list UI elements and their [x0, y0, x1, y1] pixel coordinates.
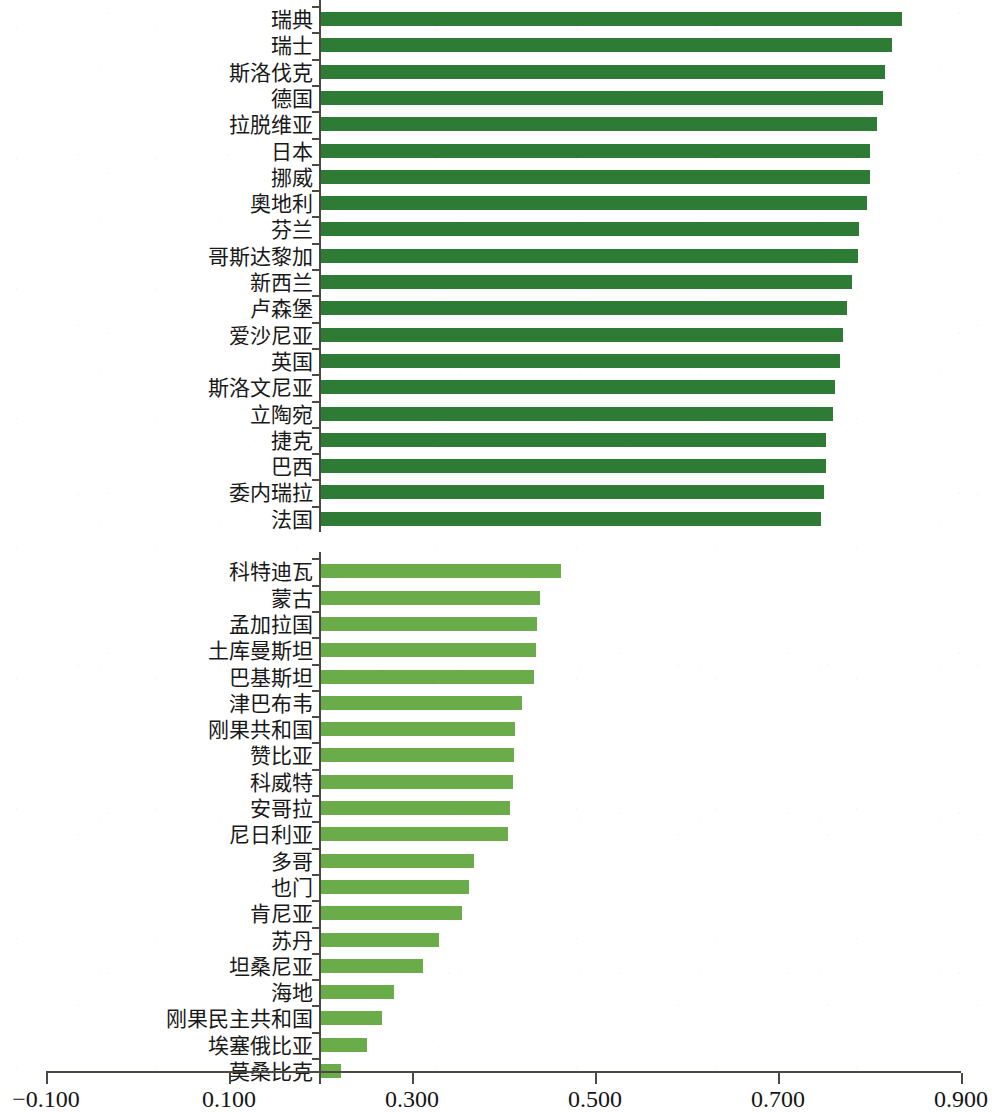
bar-row: 刚果民主共和国 — [0, 1005, 984, 1031]
category-tick — [312, 1058, 321, 1060]
category-label: 新西兰 — [250, 270, 313, 296]
bar — [321, 512, 822, 526]
x-axis-tick — [412, 1073, 414, 1084]
bar — [321, 1011, 382, 1025]
category-label: 刚果民主共和国 — [166, 1006, 313, 1032]
bar — [321, 485, 824, 499]
category-label: 英国 — [271, 349, 313, 375]
x-axis-tick — [229, 1073, 231, 1084]
category-label: 蒙古 — [271, 586, 313, 612]
x-axis-tick-label: 0.500 — [535, 1086, 655, 1112]
category-tick — [312, 637, 321, 639]
bar-row: 科威特 — [0, 769, 984, 795]
x-axis-tick-label: 0.100 — [169, 1086, 289, 1112]
bar-row: 埃塞俄比亚 — [0, 1032, 984, 1058]
bar — [321, 696, 522, 710]
category-label: 肯尼亚 — [250, 901, 313, 927]
category-tick — [312, 59, 321, 61]
bar-row: 斯洛伐克 — [0, 59, 984, 85]
category-label: 爱沙尼亚 — [229, 323, 313, 349]
plot-area: 瑞典瑞士斯洛伐克德国拉脱维亚日本挪威奧地利芬兰哥斯达黎加新西兰卢森堡爱沙尼亚英国… — [0, 0, 984, 1072]
bar — [321, 117, 877, 131]
category-tick — [312, 85, 321, 87]
category-tick — [312, 295, 321, 297]
category-tick — [312, 690, 321, 692]
category-label: 多哥 — [271, 849, 313, 875]
bar-row: 津巴布韦 — [0, 690, 984, 716]
bar — [321, 170, 870, 184]
category-tick — [312, 927, 321, 929]
category-tick — [312, 322, 321, 324]
bar-row: 土库曼斯坦 — [0, 637, 984, 663]
category-label: 拉脱维亚 — [229, 112, 313, 138]
bar — [321, 65, 886, 79]
category-label: 瑞士 — [271, 33, 313, 59]
bar-row: 英国 — [0, 348, 984, 374]
bar — [321, 91, 884, 105]
bar-row: 法国 — [0, 506, 984, 532]
category-tick — [312, 269, 321, 271]
bar-row: 赞比亚 — [0, 742, 984, 768]
category-label: 立陶宛 — [250, 402, 313, 428]
bar-row: 立陶宛 — [0, 401, 984, 427]
category-tick — [312, 664, 321, 666]
bar — [321, 801, 510, 815]
x-axis-tick — [595, 1073, 597, 1084]
category-tick — [312, 795, 321, 797]
bar — [321, 617, 538, 631]
category-tick — [312, 374, 321, 376]
bar — [321, 1038, 368, 1052]
bar-row: 巴基斯坦 — [0, 664, 984, 690]
category-label: 德国 — [271, 86, 313, 112]
category-label: 哥斯达黎加 — [208, 244, 313, 270]
category-label: 安哥拉 — [250, 796, 313, 822]
bar-row: 蒙古 — [0, 585, 984, 611]
category-tick — [312, 164, 321, 166]
category-tick — [312, 216, 321, 218]
bar-row: 孟加拉国 — [0, 611, 984, 637]
x-axis-tick-label: 0.300 — [352, 1086, 472, 1112]
category-label: 埃塞俄比亚 — [208, 1033, 313, 1059]
bar-row: 巴西 — [0, 453, 984, 479]
bar — [321, 12, 902, 26]
category-label: 巴基斯坦 — [229, 665, 313, 691]
bar — [321, 985, 394, 999]
x-axis-tick-label: 0.900 — [901, 1086, 992, 1112]
category-tick — [312, 243, 321, 245]
bar-row: 委内瑞拉 — [0, 479, 984, 505]
bar — [321, 222, 860, 236]
category-tick — [312, 848, 321, 850]
category-label: 捷克 — [271, 428, 313, 454]
bar — [321, 328, 843, 342]
category-tick — [312, 900, 321, 902]
category-tick — [312, 111, 321, 113]
category-label: 苏丹 — [271, 928, 313, 954]
bar-row: 哥斯达黎加 — [0, 243, 984, 269]
category-label: 坦桑尼亚 — [229, 954, 313, 980]
bar-row: 科特迪瓦 — [0, 558, 984, 584]
category-label: 土库曼斯坦 — [208, 638, 313, 664]
category-tick — [312, 716, 321, 718]
bar-row: 刚果共和国 — [0, 716, 984, 742]
category-label: 斯洛伐克 — [229, 60, 313, 86]
category-tick — [312, 611, 321, 613]
bar-row: 芬兰 — [0, 216, 984, 242]
bar-row: 捷克 — [0, 427, 984, 453]
bar — [321, 564, 562, 578]
category-tick — [312, 506, 321, 508]
category-label: 科威特 — [250, 770, 313, 796]
category-label: 孟加拉国 — [229, 612, 313, 638]
x-axis-tick — [961, 1073, 963, 1084]
category-label: 挪威 — [271, 165, 313, 191]
bar — [321, 433, 827, 447]
bar-row: 卢森堡 — [0, 295, 984, 321]
category-tick — [312, 953, 321, 955]
bar — [321, 144, 870, 158]
x-axis-tick — [778, 1073, 780, 1084]
bar — [321, 275, 853, 289]
bar — [321, 906, 463, 920]
bar — [321, 722, 516, 736]
category-label: 巴西 — [271, 454, 313, 480]
category-label: 瑞典 — [271, 7, 313, 33]
